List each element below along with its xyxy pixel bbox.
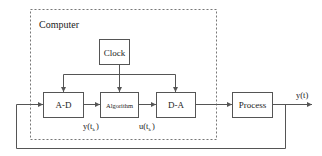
algorithm-block: Algorithm (101, 93, 139, 118)
control-signal-label: u(tk) (139, 121, 155, 132)
output-signal-label: y(t) (296, 90, 308, 100)
sampled-output-close: ) (96, 121, 99, 131)
da-label: D-A (168, 100, 184, 110)
process-label: Process (239, 100, 267, 110)
sampled-output-label: y(tk) (83, 121, 99, 132)
algorithm-label: Algorithm (106, 102, 133, 109)
ad-block: A-D (44, 93, 84, 118)
clock-lines (64, 65, 176, 93)
computer-label: Computer (39, 19, 80, 30)
ad-label: A-D (56, 100, 72, 110)
block-diagram: Computer Clock A-D Algorithm D-A Process (0, 0, 322, 156)
da-block: D-A (157, 93, 196, 118)
control-close: ) (152, 121, 155, 131)
process-block: Process (233, 93, 273, 118)
clock-label: Clock (104, 48, 126, 58)
clock-block: Clock (100, 40, 130, 65)
